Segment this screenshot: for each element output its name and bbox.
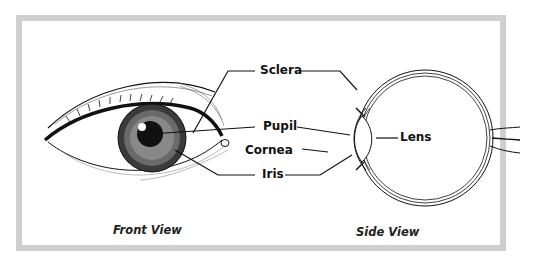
label-sclera: Sclera — [260, 63, 302, 77]
label-iris: Iris — [262, 167, 284, 181]
label-lens: Lens — [400, 130, 431, 144]
label-cornea: Cornea — [245, 143, 293, 157]
label-pupil: Pupil — [263, 119, 297, 133]
caption-front-view: Front View — [113, 223, 182, 237]
eye-illustration — [0, 0, 553, 275]
caption-side-view: Side View — [356, 225, 419, 239]
